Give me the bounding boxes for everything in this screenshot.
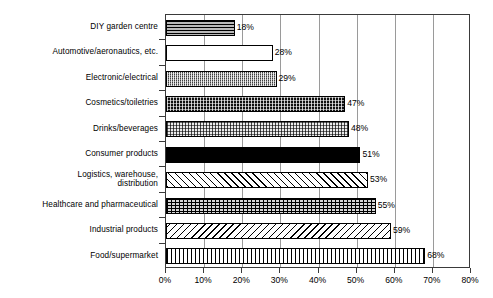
x-axis-tick	[279, 268, 280, 273]
bar	[166, 121, 349, 137]
x-axis-tick	[356, 268, 357, 273]
bar-chart: DIY garden centreAutomotive/aeronautics,…	[0, 0, 493, 298]
bar	[166, 45, 273, 61]
plot-area	[165, 14, 470, 268]
x-axis-tick-label: 80%	[461, 275, 478, 285]
bar	[166, 20, 235, 36]
category-label: Cosmetics/toiletries	[85, 98, 158, 108]
y-axis-tick	[159, 116, 165, 117]
bar	[166, 223, 391, 239]
y-axis-tick	[159, 141, 165, 142]
bar-value-label: 18%	[237, 22, 254, 32]
bar	[166, 198, 376, 214]
y-axis-tick	[159, 166, 165, 167]
category-label: Logistics, warehouse, distribution	[78, 170, 158, 189]
bar	[166, 71, 277, 87]
x-axis-tick	[432, 268, 433, 273]
bar-value-label: 28%	[275, 47, 292, 57]
bar-value-label: 48%	[351, 123, 368, 133]
x-axis-tick-label: 20%	[233, 275, 250, 285]
y-axis-tick	[159, 243, 165, 244]
bar-value-label: 55%	[378, 200, 395, 210]
bar	[166, 172, 368, 188]
x-axis-tick-label: 0%	[159, 275, 171, 285]
category-label: Automotive/aeronautics, etc.	[52, 47, 158, 57]
x-axis-tick	[318, 268, 319, 273]
gridline-70	[433, 15, 434, 267]
bar	[166, 248, 425, 264]
x-axis-tick-label: 60%	[385, 275, 402, 285]
category-label: Consumer products	[85, 149, 158, 159]
y-axis-tick	[159, 90, 165, 91]
bar-value-label: 68%	[427, 250, 444, 260]
bar	[166, 96, 345, 112]
x-axis-tick-label: 30%	[271, 275, 288, 285]
y-axis-tick	[159, 39, 165, 40]
category-label: DIY garden centre	[90, 22, 158, 32]
category-label: Drinks/beverages	[93, 124, 158, 134]
bar-value-label: 51%	[362, 149, 379, 159]
category-axis-labels: DIY garden centreAutomotive/aeronautics,…	[0, 14, 162, 268]
x-axis-tick	[470, 268, 471, 273]
category-label: Electronic/electrical	[86, 73, 158, 83]
bar-value-label: 59%	[393, 225, 410, 235]
bar-value-label: 47%	[347, 98, 364, 108]
category-label: Food/supermarket	[90, 251, 158, 261]
bar-value-label: 53%	[370, 174, 387, 184]
category-label: Healthcare and pharmaceutical	[42, 200, 158, 210]
x-axis-tick	[241, 268, 242, 273]
x-axis-tick-label: 10%	[195, 275, 212, 285]
x-axis-tick-label: 40%	[309, 275, 326, 285]
x-axis-tick	[165, 268, 166, 273]
x-axis-tick	[203, 268, 204, 273]
y-axis-tick	[159, 217, 165, 218]
x-axis-tick-label: 70%	[423, 275, 440, 285]
x-axis-tick-label: 50%	[347, 275, 364, 285]
y-axis-tick	[159, 65, 165, 66]
category-label: Industrial products	[90, 225, 158, 235]
y-axis-tick	[159, 192, 165, 193]
bar	[166, 147, 360, 163]
x-axis-tick	[394, 268, 395, 273]
bar-value-label: 29%	[279, 73, 296, 83]
